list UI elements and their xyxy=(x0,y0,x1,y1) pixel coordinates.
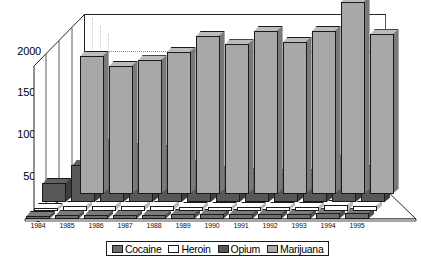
bar-front-face xyxy=(196,36,220,194)
bar-front-face xyxy=(295,207,319,211)
chart-container: 2000 1500 1000 500 0 xyxy=(0,0,421,266)
legend-item-cocaine[interactable]: Cocaine xyxy=(112,244,161,254)
bar-front-face xyxy=(42,183,66,202)
bar-front-face xyxy=(167,52,191,194)
bar-front-face xyxy=(92,206,116,211)
bar-heroin-1993 xyxy=(295,207,319,211)
bar-heroin-1994 xyxy=(324,205,348,211)
bar-front-face xyxy=(229,214,253,219)
bar-cocaine-1994 xyxy=(316,213,340,219)
bar-cocaine-1985 xyxy=(55,215,79,219)
chart-legend: Cocaine Heroin Opium Marijuana xyxy=(106,241,329,256)
bar-front-face xyxy=(34,208,58,211)
bar-front-face xyxy=(353,206,377,211)
legend-item-opium[interactable]: Opium xyxy=(218,244,260,254)
bar-cocaine-1989 xyxy=(171,214,195,219)
bar-front-face xyxy=(84,215,108,219)
bar-heroin-1995 xyxy=(353,206,377,211)
bar-front-face xyxy=(150,206,174,211)
bar-front-face xyxy=(109,66,133,194)
bar-heroin-1986 xyxy=(92,206,116,211)
bar-marijuana-1991 xyxy=(254,31,278,194)
bar-front-face xyxy=(80,56,104,194)
legend-swatch-cocaine xyxy=(112,245,123,253)
bar-marijuana-1990 xyxy=(225,44,249,193)
bar-heroin-1991 xyxy=(237,207,261,211)
x-tick-label-1994: 1994 xyxy=(313,222,343,229)
x-tick-label-1988: 1988 xyxy=(139,222,169,229)
bar-cocaine-1984 xyxy=(26,216,50,219)
x-tick-label-1995: 1995 xyxy=(342,222,372,229)
legend-label-heroin: Heroin xyxy=(181,244,210,254)
bar-marijuana-1995 xyxy=(370,34,394,193)
bar-front-face xyxy=(208,207,232,211)
bar-heroin-1988 xyxy=(150,206,174,211)
x-tick-label-1993: 1993 xyxy=(284,222,314,229)
x-tick-label-1986: 1986 xyxy=(81,222,111,229)
bar-cocaine-1986 xyxy=(84,215,108,219)
legend-label-cocaine: Cocaine xyxy=(125,244,161,254)
bar-cocaine-1988 xyxy=(142,215,166,219)
bar-cocaine-1992 xyxy=(258,214,282,219)
x-tick-label-1984: 1984 xyxy=(23,222,53,229)
bar-marijuana-1986 xyxy=(109,66,133,194)
bar-front-face xyxy=(138,60,162,194)
bar-front-face xyxy=(345,213,369,219)
bar-front-face xyxy=(179,207,203,211)
bar-marijuana-1985 xyxy=(80,56,104,194)
bar-front-face xyxy=(225,44,249,193)
legend-label-opium: Opium xyxy=(231,244,260,254)
x-tick-label-1987: 1987 xyxy=(110,222,140,229)
x-tick-label-1990: 1990 xyxy=(197,222,227,229)
bar-opium-1984 xyxy=(42,183,66,202)
bar-cocaine-1990 xyxy=(200,214,224,219)
bar-marijuana-1988 xyxy=(167,52,191,194)
bar-front-face xyxy=(287,214,311,219)
bar-front-face xyxy=(370,34,394,193)
x-tick-label-1992: 1992 xyxy=(255,222,285,229)
bar-front-face xyxy=(237,207,261,211)
bar-front-face xyxy=(266,207,290,211)
bar-front-face xyxy=(283,42,307,194)
bar-front-face xyxy=(63,206,87,211)
bar-marijuana-1994 xyxy=(341,2,365,194)
bar-marijuana-1993 xyxy=(312,31,336,194)
bar-front-face xyxy=(26,216,50,219)
x-tick-label-1989: 1989 xyxy=(168,222,198,229)
bar-front-face xyxy=(142,215,166,219)
bar-front-face xyxy=(55,215,79,219)
bar-cocaine-1987 xyxy=(113,215,137,219)
legend-label-marijuana: Marijuana xyxy=(280,244,323,254)
bar-front-face xyxy=(121,206,145,211)
bar-heroin-1992 xyxy=(266,207,290,211)
bar-front-face xyxy=(200,214,224,219)
bar-front-face xyxy=(316,213,340,219)
legend-item-marijuana[interactable]: Marijuana xyxy=(267,244,323,254)
bar-front-face xyxy=(312,31,336,194)
bar-marijuana-1989 xyxy=(196,36,220,194)
legend-swatch-marijuana xyxy=(267,245,278,253)
x-tick-label-1985: 1985 xyxy=(52,222,82,229)
bar-front-face xyxy=(171,214,195,219)
bar-front-face xyxy=(324,205,348,211)
bar-heroin-1989 xyxy=(179,207,203,211)
bar-cocaine-1993 xyxy=(287,214,311,219)
bar-front-face xyxy=(258,214,282,219)
bar-heroin-1987 xyxy=(121,206,145,211)
legend-item-heroin[interactable]: Heroin xyxy=(168,244,210,254)
bar-heroin-1985 xyxy=(63,206,87,211)
bar-marijuana-1987 xyxy=(138,60,162,194)
bar-heroin-1990 xyxy=(208,207,232,211)
bar-cocaine-1991 xyxy=(229,214,253,219)
x-tick-label-1991: 1991 xyxy=(226,222,256,229)
bar-front-face xyxy=(113,215,137,219)
plot-area: 2000 1500 1000 500 0 xyxy=(0,0,421,236)
bar-front-face xyxy=(254,31,278,194)
legend-swatch-opium xyxy=(218,245,229,253)
bar-cocaine-1995 xyxy=(345,213,369,219)
legend-swatch-heroin xyxy=(168,245,179,253)
bar-front-face xyxy=(341,2,365,194)
bar-marijuana-1992 xyxy=(283,42,307,194)
bar-heroin-1984 xyxy=(34,208,58,211)
